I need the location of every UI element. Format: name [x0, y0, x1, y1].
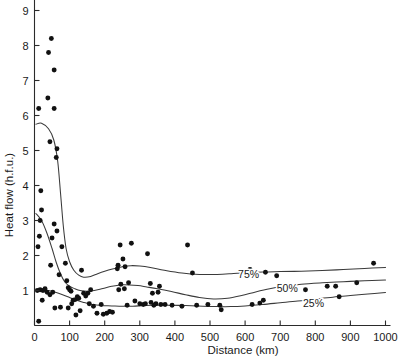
curve-label-50pct: 50% [277, 282, 298, 294]
data-point [36, 319, 41, 324]
data-point [47, 292, 52, 297]
data-point [69, 289, 74, 294]
data-point [58, 305, 63, 310]
chart-figure: 1234567890100200300400500600700800900100… [0, 0, 406, 360]
data-point [52, 68, 57, 73]
curve-label-75pct: 75% [238, 268, 259, 280]
data-point [303, 287, 308, 292]
y-axis-title: Heat flow (h.f.u.) [3, 153, 15, 238]
data-point [64, 278, 69, 283]
data-points-layer [35, 36, 376, 324]
data-point [38, 188, 43, 193]
y-tick-label: 2 [22, 250, 28, 262]
data-point [47, 139, 52, 144]
data-point [52, 106, 57, 111]
x-tick-label: 300 [131, 331, 149, 343]
data-point [63, 261, 68, 266]
data-point [45, 96, 50, 101]
x-tick-label: 400 [166, 331, 184, 343]
y-tick-label: 9 [22, 5, 28, 17]
data-point [39, 208, 44, 213]
data-point [36, 106, 41, 111]
data-point [250, 302, 255, 307]
x-tick-label: 200 [96, 331, 114, 343]
data-point [145, 251, 150, 256]
data-point [261, 298, 266, 303]
data-point [48, 263, 53, 268]
data-point [55, 229, 60, 234]
y-tick-label: 1 [22, 285, 28, 297]
data-point [354, 280, 359, 285]
data-point [50, 236, 55, 241]
data-point [57, 272, 62, 277]
data-point [46, 50, 51, 55]
data-point [40, 298, 45, 303]
data-point [66, 306, 71, 311]
x-tick-label: 1000 [373, 331, 397, 343]
data-point [37, 234, 42, 239]
x-axis-title: Distance (km) [208, 344, 279, 356]
data-point [76, 296, 81, 301]
data-point [150, 291, 155, 296]
data-point [73, 313, 78, 318]
data-point [59, 244, 64, 249]
x-tick-label: 900 [341, 331, 359, 343]
data-point [118, 282, 123, 287]
data-point [274, 273, 279, 278]
data-point [87, 301, 92, 306]
data-point [337, 294, 342, 299]
data-point [132, 299, 137, 304]
y-tick-label: 4 [22, 180, 28, 192]
data-point [36, 244, 41, 249]
data-point [158, 302, 163, 307]
x-tick-label: 800 [306, 331, 324, 343]
data-point [126, 280, 131, 285]
y-tick-label: 6 [22, 110, 28, 122]
x-tick-label: 500 [201, 331, 219, 343]
data-point [52, 306, 57, 311]
data-point [55, 146, 60, 151]
data-point [156, 290, 161, 295]
curve-label-25pct: 25% [303, 297, 324, 309]
data-point [99, 302, 104, 307]
y-tick-label: 5 [22, 145, 28, 157]
data-point [157, 284, 162, 289]
y-tick-label: 7 [22, 75, 28, 87]
percentile-curve-50pct [36, 214, 386, 299]
y-tick-label: 8 [22, 40, 28, 52]
data-point [263, 270, 268, 275]
data-point [143, 301, 148, 306]
percentile-curves-layer [36, 123, 386, 307]
axis-labels-layer: 1234567890100200300400500600700800900100… [3, 5, 398, 357]
data-point [154, 301, 159, 306]
data-point [52, 222, 57, 227]
data-point [125, 303, 130, 308]
data-point [185, 243, 190, 248]
x-tick-label: 600 [236, 331, 254, 343]
data-point [88, 287, 93, 292]
data-point [219, 307, 224, 312]
data-point [371, 261, 376, 266]
data-point [194, 303, 199, 308]
data-point [325, 284, 330, 289]
data-point [205, 302, 210, 307]
data-point [217, 303, 222, 308]
data-point [129, 241, 134, 246]
data-point [49, 36, 54, 41]
data-point [190, 271, 195, 276]
data-point [78, 308, 83, 313]
data-point [333, 284, 338, 289]
data-point [118, 243, 123, 248]
data-point [148, 281, 153, 286]
data-point [116, 263, 121, 268]
data-point [110, 310, 115, 315]
percentile-curve-75pct [36, 123, 386, 277]
data-point [163, 302, 168, 307]
y-tick-label: 3 [22, 215, 28, 227]
curve-line-0 [36, 123, 386, 277]
data-point [123, 264, 128, 269]
data-point [79, 268, 84, 273]
data-point [179, 304, 184, 309]
data-point [95, 311, 100, 316]
curve-line-1 [36, 214, 386, 299]
